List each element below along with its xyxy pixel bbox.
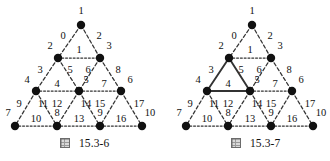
graph-vertex-8: [224, 122, 232, 130]
edge-label-7: 7: [101, 78, 106, 89]
graph-diagram: 0213568479111214151710131612345678910021…: [0, 0, 330, 161]
edge-label-2: 2: [96, 30, 101, 41]
figure-15.3-7: 0213568479111214151710131612345678910: [176, 5, 326, 130]
edge-label-11: 11: [38, 98, 48, 109]
edge-label-5: 5: [238, 64, 243, 75]
vertex-label-7: 7: [5, 107, 10, 118]
graph-vertex-2: [225, 54, 233, 62]
vertex-label-10: 10: [145, 107, 156, 118]
vertex-label-7: 7: [176, 107, 181, 118]
edge-label-16: 16: [116, 113, 127, 124]
edge-label-13: 13: [245, 113, 256, 124]
edge-label-0: 0: [60, 30, 65, 41]
graph-vertex-3: [267, 54, 275, 62]
vertex-label-4: 4: [195, 74, 201, 85]
vertex-label-9: 9: [97, 107, 102, 118]
edge-label-16: 16: [287, 113, 298, 124]
graph-vertex-8: [53, 122, 61, 130]
vertex-label-3: 3: [106, 40, 111, 51]
graph-vertex-7: [11, 122, 19, 130]
edge-label-3: 3: [37, 64, 42, 75]
edge-label-9: 9: [16, 98, 21, 109]
vertex-label-4: 4: [24, 74, 30, 85]
vertex-label-5: 5: [83, 74, 88, 85]
edge-label-14: 14: [81, 98, 92, 109]
figure-cjk-glyph-icon: [231, 138, 241, 148]
vertex-label-8: 8: [225, 107, 230, 118]
edge-label-9: 9: [187, 98, 192, 109]
edge-label-5: 5: [67, 64, 72, 75]
edge-label-10: 10: [202, 113, 213, 124]
figure-cjk-glyph-icon: [60, 138, 70, 148]
edge-label-8: 8: [286, 64, 291, 75]
vertex-label-2: 2: [218, 40, 223, 51]
edge-label-0: 0: [231, 30, 236, 41]
figure-caption-right: 15.3-7: [231, 137, 280, 149]
graph-vertex-9: [267, 122, 275, 130]
edge-label-14: 14: [252, 98, 263, 109]
edge-label-4: 4: [54, 78, 60, 89]
graph-vertex-9: [96, 122, 104, 130]
graph-vertex-1: [77, 21, 85, 29]
graph-vertex-5: [246, 87, 254, 95]
vertex-label-5: 5: [254, 74, 259, 85]
figure-15.3-6: 0213568479111214151710131612345678910: [5, 5, 155, 130]
edge-label-1: 1: [247, 44, 252, 55]
graph-vertex-1: [248, 21, 256, 29]
edge-label-4: 4: [225, 78, 231, 89]
graph-vertex-4: [32, 87, 40, 95]
figure-caption-number-left: 15.3-6: [79, 137, 109, 149]
graph-vertex-2: [54, 54, 62, 62]
figure-pair-canvas: 0213568479111214151710131612345678910021…: [0, 0, 330, 161]
graph-vertex-6: [117, 87, 125, 95]
figure-caption-number-right: 15.3-7: [250, 137, 280, 149]
edge-label-8: 8: [115, 64, 120, 75]
graph-vertex-4: [203, 87, 211, 95]
vertex-label-10: 10: [316, 107, 327, 118]
edge-label-2: 2: [267, 30, 272, 41]
vertex-label-1: 1: [249, 5, 254, 16]
edge-label-17: 17: [305, 98, 316, 109]
edge-label-7: 7: [272, 78, 277, 89]
vertex-label-3: 3: [277, 40, 282, 51]
graph-vertex-10: [138, 122, 146, 130]
edge-label-11: 11: [209, 98, 219, 109]
graph-vertex-7: [182, 122, 190, 130]
graph-vertex-3: [96, 54, 104, 62]
vertex-label-6: 6: [127, 74, 132, 85]
vertex-label-2: 2: [47, 40, 52, 51]
vertex-label-9: 9: [268, 107, 273, 118]
figure-caption-left: 15.3-6: [60, 137, 109, 149]
graph-vertex-10: [309, 122, 317, 130]
vertex-label-8: 8: [54, 107, 59, 118]
edge-label-13: 13: [74, 113, 85, 124]
edge-label-1: 1: [76, 44, 81, 55]
graph-vertex-6: [288, 87, 296, 95]
graph-vertex-5: [75, 87, 83, 95]
vertex-label-1: 1: [78, 5, 83, 16]
edge-label-17: 17: [134, 98, 145, 109]
vertex-label-6: 6: [298, 74, 303, 85]
edge-label-10: 10: [31, 113, 42, 124]
edge-label-3: 3: [208, 64, 213, 75]
